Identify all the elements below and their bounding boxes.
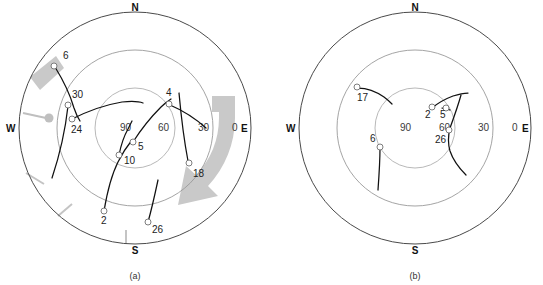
marker-sv-6[interactable]	[51, 63, 57, 69]
ring-label-60-a: 60	[158, 122, 170, 133]
sv-label-26-a: 26	[152, 224, 164, 235]
sv-label-26-b: 26	[435, 134, 447, 145]
panel-b-sv-labels: 17 2 5 26 6	[357, 92, 447, 145]
ring-label-30-b: 30	[478, 122, 490, 133]
marker-sv-10[interactable]	[116, 152, 122, 158]
sv-label-18-a: 18	[193, 168, 205, 179]
marker-sv-6-b[interactable]	[377, 144, 383, 150]
marker-sv-18[interactable]	[186, 160, 192, 166]
cardinal-east-a: E	[241, 123, 248, 134]
marker-sv-2[interactable]	[101, 208, 107, 214]
track-sv-30	[52, 106, 68, 178]
ring-label-90-a: 90	[120, 122, 132, 133]
track-sv-26	[148, 180, 158, 222]
cardinal-west-a: W	[6, 123, 16, 134]
cardinal-north-a: N	[131, 2, 138, 13]
sv-label-24-a: 24	[71, 124, 83, 135]
ring-label-30-a: 30	[198, 122, 210, 133]
marker-sv-5[interactable]	[130, 139, 136, 145]
sv-label-30-a: 30	[72, 89, 84, 100]
elevation-ring-30-b	[337, 50, 493, 206]
sv-label-2-a: 2	[101, 215, 107, 226]
marker-sv-24[interactable]	[69, 116, 75, 122]
figure-skyplot-pair: N S W E 0 30 60 90	[0, 0, 543, 285]
ring-label-90-b: 90	[400, 122, 412, 133]
cardinal-east-b: E	[522, 123, 529, 134]
sv-label-6-b: 6	[370, 133, 376, 144]
ring-label-0-a: 0	[232, 122, 238, 133]
sv-label-17-b: 17	[357, 92, 369, 103]
marker-sv-30[interactable]	[65, 102, 71, 108]
cardinal-south-b: S	[412, 245, 419, 256]
sv-label-5-a: 5	[138, 141, 144, 152]
panel-a-shading	[23, 56, 235, 244]
elevation-ring-0	[19, 12, 251, 244]
panel-a-plot: N S W E 0 30 60 90	[0, 0, 271, 285]
marker-sv-26-b[interactable]	[446, 127, 452, 133]
sv-label-6-a: 6	[63, 50, 69, 61]
radial-tick-sw-2	[58, 204, 72, 216]
caption-b: (b)	[410, 271, 421, 281]
marker-sv-4[interactable]	[166, 101, 172, 107]
marker-sv-26[interactable]	[145, 219, 151, 225]
sv-label-10-a: 10	[124, 155, 136, 166]
panel-b: N S W E 0 30 60 90	[272, 0, 543, 285]
track-sv-6-b	[378, 148, 380, 190]
ring-label-0-b: 0	[512, 122, 518, 133]
pin-marker-line-west	[23, 113, 46, 118]
sv-label-4-a: 4	[166, 87, 172, 98]
track-sv-26-b	[449, 95, 467, 175]
sv-label-5-b: 5	[440, 109, 446, 120]
caption-a: (a)	[130, 271, 141, 281]
track-sv-5	[133, 99, 171, 142]
sv-label-2-b: 2	[425, 109, 431, 120]
track-sv-24	[72, 101, 143, 119]
cardinal-south-a: S	[132, 245, 139, 256]
marker-sv-17-b[interactable]	[354, 84, 360, 90]
panel-b-plot: N S W E 0 30 60 90	[272, 0, 543, 285]
elevation-ring-0-b	[299, 12, 531, 244]
pin-marker-dot-west	[45, 114, 54, 123]
panel-a: N S W E 0 30 60 90	[0, 0, 271, 285]
cardinal-north-b: N	[411, 2, 418, 13]
cardinal-west-b: W	[286, 123, 296, 134]
track-sv-2	[104, 140, 132, 211]
track-sv-30b	[179, 93, 188, 161]
